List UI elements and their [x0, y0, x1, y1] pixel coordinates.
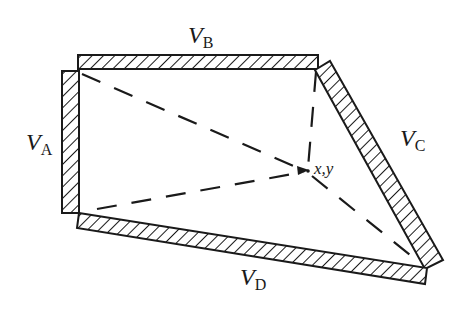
dashed-line-top-right: [308, 72, 316, 168]
electrode-label-b: VB: [188, 22, 213, 51]
dashed-line-top-left: [82, 74, 305, 171]
point-dot: [306, 169, 310, 173]
electrode-a-bar: [62, 71, 79, 213]
dashed-line-bottom-left: [97, 172, 304, 209]
electrode-c-bar: [315, 61, 443, 269]
electrode-label-a: VA: [26, 129, 53, 158]
point-label: x,y: [313, 159, 334, 178]
point-marker: [297, 166, 310, 175]
electrode-diagram: VB VA VC VD x,y: [0, 0, 464, 311]
electrode-label-c: VC: [400, 125, 425, 154]
electrode-label-d: VD: [240, 264, 266, 293]
electrode-b-bar: [78, 55, 318, 69]
